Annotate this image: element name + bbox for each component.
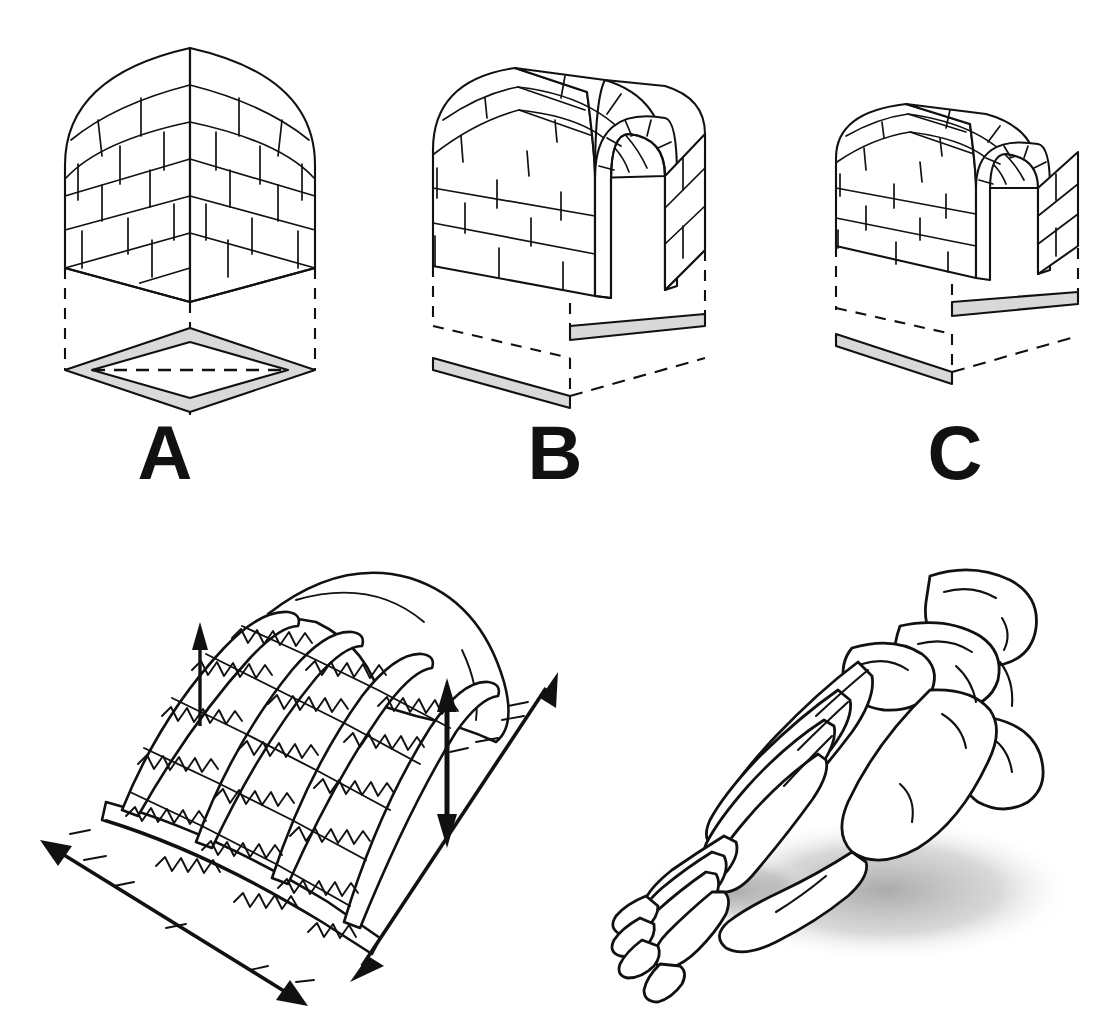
panel-b-svg [415, 58, 725, 418]
vault-left-wall [836, 104, 976, 278]
vault-left-wall [433, 68, 595, 296]
dome-right-face [190, 48, 315, 302]
panel-label-b: B [495, 415, 615, 491]
panel-label-a: A [105, 415, 225, 491]
foot-skeleton-svg [600, 540, 1100, 1010]
longitudinal-arrow [40, 840, 308, 1006]
height-arrow [437, 678, 457, 848]
panel-c-barrel-vault [820, 96, 1100, 426]
spring-arch-model-svg [10, 530, 580, 1017]
base-plate [102, 802, 380, 954]
spring-arch-model [10, 530, 580, 1017]
panel-a-svg [40, 40, 340, 420]
panel-label-c: C [895, 415, 1015, 491]
foot-skeleton [600, 540, 1100, 1010]
figure-root: A [0, 0, 1110, 1017]
dome-left-face [65, 48, 190, 302]
panel-b-barrel-vault [415, 58, 725, 418]
panel-c-svg [820, 96, 1100, 426]
base-plate-c [836, 292, 1078, 384]
panel-a-dome [40, 40, 340, 420]
